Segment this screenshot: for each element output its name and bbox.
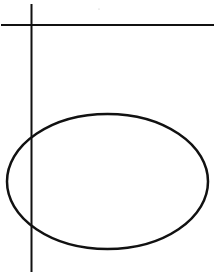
- speck-dot: [98, 8, 99, 9]
- diagram-canvas: [0, 0, 214, 274]
